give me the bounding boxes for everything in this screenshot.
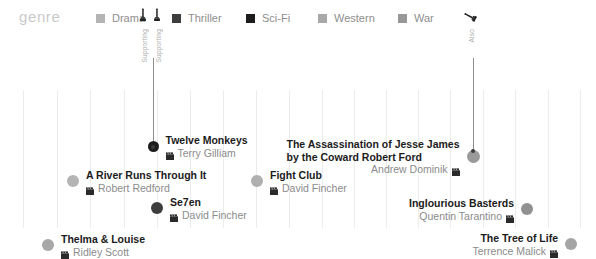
film-text-block: Inglourious BasterdsQuentin Tarantino — [409, 197, 521, 222]
legend-swatch-icon — [96, 14, 105, 23]
legend-item-label: Sci-Fi — [262, 12, 290, 24]
award-center-dot — [471, 149, 475, 153]
film-text-block: Twelve MonkeysTerry Gilliam — [159, 134, 248, 159]
clapperboard-icon — [166, 149, 174, 157]
film-genre-dot[interactable] — [251, 175, 263, 187]
award-label: Also — [468, 29, 475, 42]
film-genre-dot[interactable] — [42, 239, 54, 251]
gridline — [580, 90, 581, 228]
film-director-name: Terry Gilliam — [178, 147, 236, 159]
legend-item-war[interactable]: War — [398, 12, 434, 24]
gridline — [124, 90, 125, 228]
film-director-name: Robert Redford — [98, 182, 170, 194]
film-director-name: Quentin Tarantino — [419, 210, 502, 222]
film-director-name: Andrew Dominik — [371, 163, 447, 175]
film-title: Se7en — [170, 196, 201, 209]
legend-swatch-icon — [318, 14, 327, 23]
film-title: Thelma & Louise — [61, 233, 145, 246]
award-center-dot — [151, 145, 155, 149]
plot-area: SupportingSupportingTwelve MonkeysTerry … — [0, 34, 596, 228]
legend-item-drama[interactable]: Drama — [96, 12, 145, 24]
legend-item-label: Western — [334, 12, 375, 24]
legend-item-western[interactable]: Western — [318, 12, 375, 24]
film-text-block: A River Runs Through ItRobert Redford — [79, 169, 206, 194]
film-director-name: Ridley Scott — [73, 246, 129, 258]
film-genre-dot[interactable] — [565, 238, 577, 250]
film-title-line2: by the Coward Robert Ford — [287, 151, 460, 164]
clapperboard-icon — [86, 184, 94, 192]
clapperboard-icon — [170, 211, 178, 219]
film-director-row: David Fincher — [270, 182, 347, 194]
film-entry-thelma-louise[interactable]: Thelma & LouiseRidley Scott — [42, 233, 145, 258]
oscar-award[interactable]: Also — [466, 8, 477, 42]
film-director-row: David Fincher — [170, 209, 247, 221]
legend-item-thriller[interactable]: Thriller — [172, 12, 222, 24]
film-title: The Tree of Life — [480, 232, 558, 245]
genre-timeline-chart: genre DramaThrillerSci-FiWesternWar Supp… — [0, 0, 596, 259]
award-label: Supporting — [141, 29, 148, 62]
gridline — [57, 90, 58, 228]
film-text-block: Fight ClubDavid Fincher — [263, 169, 347, 194]
legend-item-label: War — [414, 12, 434, 24]
film-title: Twelve Monkeys — [166, 134, 248, 147]
film-director-row: Andrew Dominik — [371, 163, 459, 175]
film-text-block: Se7enDavid Fincher — [163, 196, 247, 221]
film-text-block: Thelma & LouiseRidley Scott — [54, 233, 145, 258]
legend-swatch-icon — [246, 14, 255, 23]
clapperboard-icon — [506, 212, 514, 220]
gridline — [23, 90, 24, 228]
film-director-name: David Fincher — [182, 209, 247, 221]
film-title: A River Runs Through It — [86, 169, 206, 182]
film-entry-twelve-monkeys[interactable]: Twelve MonkeysTerry Gilliam — [148, 134, 248, 159]
film-director-row: Robert Redford — [86, 182, 170, 194]
oscar-statuette-icon — [139, 8, 150, 27]
clapperboard-icon — [452, 165, 460, 173]
film-text-block: The Tree of LifeTerrence Malick — [472, 232, 565, 257]
film-director-row: Quentin Tarantino — [419, 210, 514, 222]
film-entry-inglourious-basterds[interactable]: Inglourious BasterdsQuentin Tarantino — [409, 197, 533, 222]
award-label: Supporting — [155, 29, 162, 62]
gridline — [548, 90, 549, 228]
clapperboard-icon — [550, 247, 558, 255]
film-title: The Assassination of Jesse Jamesby the C… — [287, 138, 460, 163]
chart-legend: genre DramaThrillerSci-FiWesternWar — [0, 0, 596, 34]
clapperboard-icon — [61, 248, 69, 256]
film-director-name: Terrence Malick — [472, 245, 546, 257]
oscar-statuette-icon — [153, 8, 164, 27]
oscar-statuette-icon — [466, 8, 477, 27]
legend-swatch-icon — [172, 14, 181, 23]
film-entry-a-river-runs-through-it[interactable]: A River Runs Through ItRobert Redford — [67, 169, 206, 194]
film-entry-fight-club[interactable]: Fight ClubDavid Fincher — [251, 169, 347, 194]
film-genre-dot[interactable] — [521, 203, 533, 215]
oscar-award[interactable]: Supporting — [139, 8, 150, 62]
legend-item-sci-fi[interactable]: Sci-Fi — [246, 12, 290, 24]
film-genre-dot[interactable] — [151, 202, 163, 214]
gridline — [256, 90, 257, 228]
legend-title: genre — [19, 8, 60, 25]
film-director-row: Terrence Malick — [472, 245, 558, 257]
film-director-row: Ridley Scott — [61, 246, 129, 258]
film-title: Fight Club — [270, 169, 322, 182]
legend-item-label: Thriller — [188, 12, 222, 24]
film-title: Inglourious Basterds — [409, 197, 514, 210]
film-entry-the-tree-of-life[interactable]: The Tree of LifeTerrence Malick — [472, 232, 577, 257]
clapperboard-icon — [270, 184, 278, 192]
film-director-row: Terry Gilliam — [166, 147, 236, 159]
film-director-name: David Fincher — [282, 182, 347, 194]
gridline — [90, 90, 91, 228]
film-genre-dot[interactable] — [67, 175, 79, 187]
legend-swatch-icon — [398, 14, 407, 23]
film-entry-se7en[interactable]: Se7enDavid Fincher — [151, 196, 247, 221]
oscar-award[interactable]: Supporting — [153, 8, 164, 62]
